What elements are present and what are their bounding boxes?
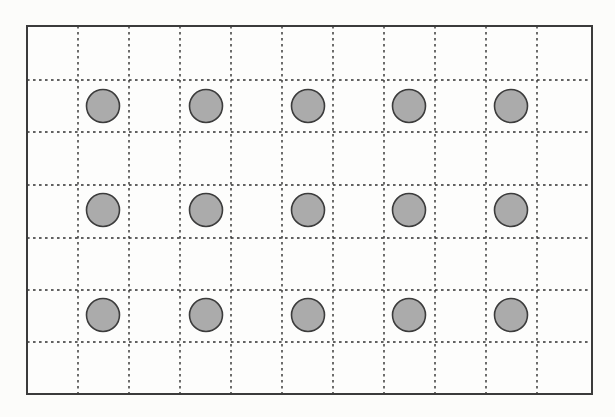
gray-dot <box>190 194 223 227</box>
gray-dot <box>495 194 528 227</box>
gray-dot <box>393 90 426 123</box>
gray-dot <box>87 194 120 227</box>
grid-dots-figure <box>0 0 615 417</box>
scanned-figure-page <box>0 0 615 417</box>
gray-dot <box>190 299 223 332</box>
gray-dot <box>292 194 325 227</box>
gray-dot <box>87 299 120 332</box>
gray-dot <box>495 299 528 332</box>
gray-dot <box>190 90 223 123</box>
gray-dot <box>87 90 120 123</box>
gray-dot <box>292 299 325 332</box>
gray-dot <box>393 194 426 227</box>
gray-dot <box>495 90 528 123</box>
gray-dot <box>292 90 325 123</box>
gray-dot <box>393 299 426 332</box>
